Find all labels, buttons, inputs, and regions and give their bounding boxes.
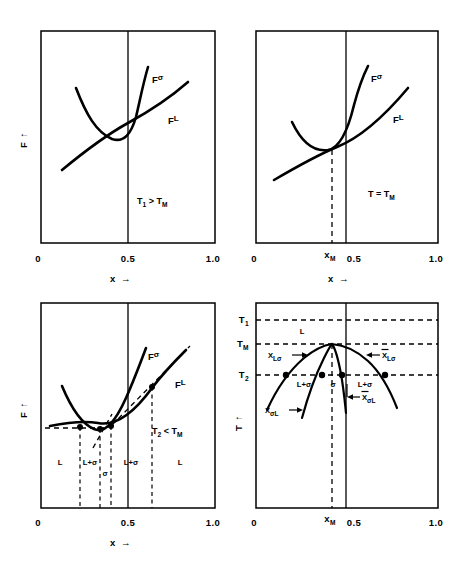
ytick-tm: TM [237,338,249,351]
label-f-liquid: FL [393,113,404,125]
yaxis-title: F↑ [18,402,29,418]
xtick-0: 0 [251,253,257,264]
sigma-free-energy-curve [76,67,148,140]
xtick-0: 0 [251,517,257,528]
four-panel-thermodynamics-figure: Fσ FL T1 > TM 0 0.5 1.0 x→ F↑ Fσ FL T = … [0,0,463,565]
leader-arrowhead-3 [366,352,372,358]
region-label-sigma: σ [330,380,336,389]
xtick-0p5: 0.5 [121,253,136,264]
region-label-l-sigma-right: L+σ [358,380,373,389]
xtick-1p0: 1.0 [206,253,220,264]
region-label-l-left: L [58,458,63,467]
xtick-1p0: 1.0 [429,253,443,264]
panel-bottom-left: Fσ FL T2 < TM L L+σ σ L+σ L 0 0.5 1.0 x→… [0,288,240,565]
xaxis-title: x→ [328,273,349,284]
panel-top-left: Fσ FL T1 > TM 0 0.5 1.0 x→ F↑ [0,0,240,290]
phase-point-4 [382,372,388,378]
label-f-liquid: FL [168,114,179,126]
solidus-right-curve [332,344,346,413]
region-label-l-sigma-left: L+σ [297,380,312,389]
condition-label: T2 < TM [152,426,183,438]
panel-top-right: Fσ FL T = TM 0 xM 0.5 1.0 x→ [232,0,463,290]
ytick-t2: T2 [239,369,249,382]
leader-arrowhead-2 [297,407,303,413]
xtick-0p5: 0.5 [347,253,362,264]
label-x-bar-sigma-l: XσL [362,393,376,404]
liquid-free-energy-curve [62,82,188,170]
phase-point-1 [283,372,289,378]
label-f-sigma: Fσ [152,73,164,85]
label-f-sigma: Fσ [148,350,160,362]
region-label-sigma: σ [102,469,108,478]
label-f-liquid: FL [175,378,186,390]
condition-label: T1 > TM [137,196,168,208]
panel-bottom-right: T1 TM T2 XLσ XσL XLσ XσL L L+σ σ L+σ [232,288,463,565]
xtick-1p0: 1.0 [429,517,443,528]
liquid-free-energy-curve [274,88,408,180]
xtick-0p5: 0.5 [121,517,136,528]
yaxis-title: F↑ [18,132,29,148]
ytick-t1: T1 [239,314,249,327]
plot-frame [256,303,438,508]
xtick-1p0: 1.0 [206,517,220,528]
leader-arrowhead-4 [347,394,353,400]
xaxis-title: x→ [110,537,131,548]
label-x-bar-l-sigma: XLσ [382,351,396,362]
plot-frame [256,31,438,243]
label-x-sigma-l: XσL [265,406,279,417]
label-x-l-sigma: XLσ [268,351,282,362]
xtick-0p5: 0.5 [347,517,362,528]
region-label-l-sigma-right: L+σ [124,458,139,467]
phase-point-3 [339,372,345,378]
xtick-0: 0 [35,517,41,528]
xtick-xm: xM [324,249,336,262]
label-f-sigma: Fσ [371,72,383,84]
xtick-xm: xM [324,513,336,526]
phase-point-2 [319,372,325,378]
yaxis-title: T↑ [233,415,244,431]
xaxis-title: x→ [110,273,131,284]
region-label-liquid: L [300,327,305,336]
common-tangent-middle [93,414,112,448]
xtick-0: 0 [35,253,41,264]
sigma-free-energy-curve [62,348,146,430]
region-label-l-sigma-left: L+σ [83,458,98,467]
region-label-l-right: L [178,458,183,467]
condition-label: T = TM [368,189,395,201]
